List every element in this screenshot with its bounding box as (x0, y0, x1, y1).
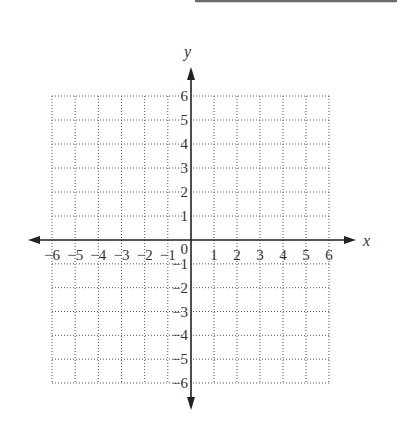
y-tick-label: 5 (181, 112, 189, 128)
origin-label: 0 (181, 241, 189, 257)
y-tick-label: 1 (181, 208, 189, 224)
x-tick-label: 3 (256, 247, 264, 263)
x-axis-right-arrow-icon (344, 236, 356, 244)
y-tick-label: 2 (181, 184, 189, 200)
x-tick-label: 5 (302, 247, 310, 263)
x-tick-label: 4 (279, 247, 287, 263)
y-tick-label: −4 (172, 327, 188, 343)
x-tick-label: −4 (90, 247, 106, 263)
y-tick-label: 6 (181, 88, 189, 104)
x-tick-label: 2 (233, 247, 241, 263)
y-axis-label: y (182, 43, 192, 61)
y-tick-label: −1 (172, 256, 188, 272)
y-tick-label: −3 (172, 304, 188, 320)
y-axis-up-arrow-icon (187, 67, 195, 80)
y-axis-down-arrow-icon (187, 397, 195, 410)
x-tick-label: −5 (67, 247, 83, 263)
x-tick-label: −6 (44, 247, 60, 263)
x-tick-label: 6 (325, 247, 333, 263)
x-tick-label: 1 (210, 247, 218, 263)
x-tick-label: −2 (137, 247, 153, 263)
y-tick-label: 3 (181, 160, 189, 176)
y-tick-label: −5 (172, 351, 188, 367)
y-tick-label: −6 (172, 375, 188, 391)
x-axis-label: x (362, 232, 370, 249)
y-tick-label: 4 (181, 136, 189, 152)
x-tick-label: −3 (114, 247, 130, 263)
axes: x y (28, 43, 370, 410)
x-axis-left-arrow-icon (28, 236, 40, 244)
y-tick-label: −2 (172, 280, 188, 296)
coordinate-plane: x y −6−5−4−3−2−1123456−6−5−4−3−2−1123456… (0, 0, 402, 437)
